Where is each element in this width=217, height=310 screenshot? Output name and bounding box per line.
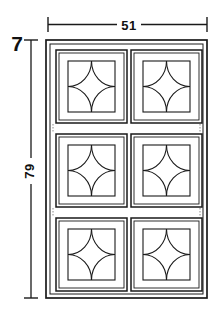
technical-drawing-figure: 51 79 7 xyxy=(0,0,217,310)
drawing-canvas: 51 79 7 xyxy=(0,0,217,310)
width-dimension-label: 51 xyxy=(121,18,136,33)
height-dimension-label: 79 xyxy=(22,163,37,178)
callout-label-7: 7 xyxy=(11,32,23,55)
